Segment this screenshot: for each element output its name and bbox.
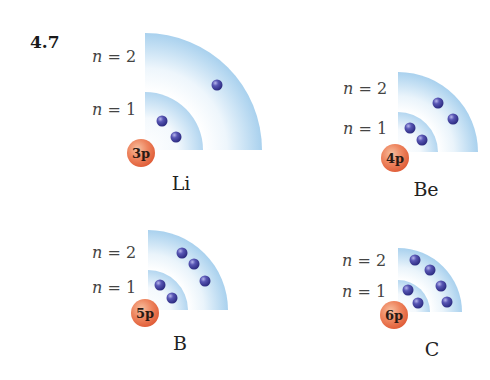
electron-icon <box>425 265 436 276</box>
element-label: C <box>425 338 440 360</box>
electron-icon <box>442 297 453 308</box>
nucleus-label: 4p <box>386 151 404 166</box>
shell-label-n1: n = 1 <box>92 100 136 119</box>
electron-icon <box>448 114 459 125</box>
atom-li: n = 2 n = 1 3p Li <box>92 33 262 194</box>
electron-icon <box>410 255 421 266</box>
electron-icon <box>417 135 428 146</box>
electron-icon <box>433 98 444 109</box>
shell-label-n2: n = 2 <box>343 79 387 98</box>
nucleus-label: 5p <box>136 306 154 321</box>
electron-icon <box>200 276 211 287</box>
element-label: B <box>173 332 187 354</box>
bohr-model-figure: 4.7 n = 2 n = 1 3p Li n = 2 n = 1 4p Be … <box>0 0 490 380</box>
electron-icon <box>157 116 168 127</box>
element-label: Be <box>413 178 438 200</box>
nucleus-label: 3p <box>132 146 150 161</box>
shell-label-n2: n = 2 <box>342 251 386 270</box>
electron-icon <box>177 248 188 259</box>
electron-icon <box>436 281 447 292</box>
electron-icon <box>189 259 200 270</box>
electron-icon <box>212 80 223 91</box>
electron-icon <box>155 280 166 291</box>
atom-b: n = 2 n = 1 5p B <box>92 230 228 354</box>
figure-number: 4.7 <box>30 32 60 52</box>
nucleus-label: 6p <box>385 308 403 323</box>
shell-label-n1: n = 1 <box>342 282 386 301</box>
electron-icon <box>413 298 424 309</box>
atom-be: n = 2 n = 1 4p Be <box>343 72 478 200</box>
shell-label-n1: n = 1 <box>92 278 136 297</box>
electron-icon <box>171 132 182 143</box>
shell-label-n1: n = 1 <box>343 119 387 138</box>
electron-icon <box>405 123 416 134</box>
shell-label-n2: n = 2 <box>92 243 136 262</box>
electron-icon <box>403 285 414 296</box>
atom-c: n = 2 n = 1 6p C <box>342 248 462 360</box>
element-label: Li <box>172 172 191 194</box>
electron-icon <box>167 293 178 304</box>
shell-label-n2: n = 2 <box>92 47 136 66</box>
